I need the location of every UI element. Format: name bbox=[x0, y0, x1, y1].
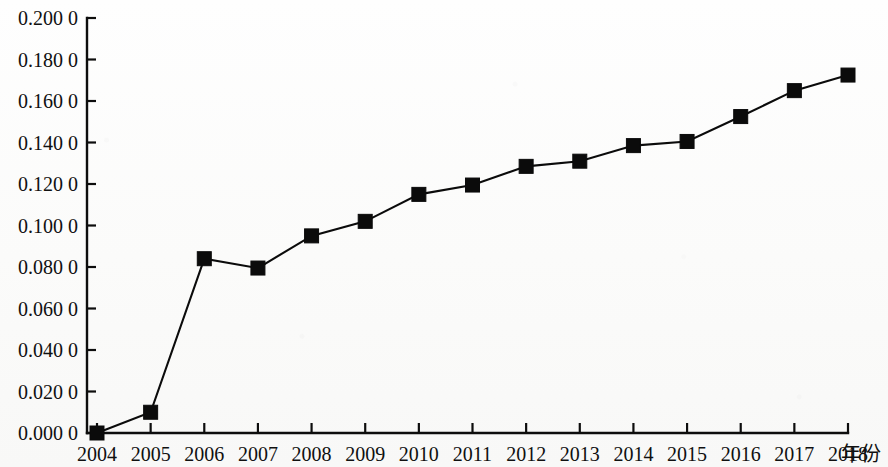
data-point-marker bbox=[144, 405, 158, 419]
data-point-marker bbox=[734, 110, 748, 124]
data-point-marker bbox=[573, 154, 587, 168]
data-point-marker bbox=[358, 214, 372, 228]
line-chart: 0.000 00.020 00.040 00.060 00.080 00.100… bbox=[0, 0, 888, 467]
data-point-marker bbox=[680, 134, 694, 148]
data-point-marker bbox=[841, 68, 855, 82]
x-axis-tick-label: 2015 bbox=[667, 443, 707, 465]
x-axis-tick-label: 2014 bbox=[613, 443, 653, 465]
y-axis-tick-label: 0.020 0 bbox=[18, 381, 78, 403]
data-point-marker bbox=[251, 261, 265, 275]
y-axis-tick-label: 0.080 0 bbox=[18, 256, 78, 278]
y-axis-tick-label: 0.120 0 bbox=[18, 173, 78, 195]
x-axis-tick-label: 2009 bbox=[345, 443, 385, 465]
data-point-marker bbox=[197, 252, 211, 266]
x-axis-tick-label: 2006 bbox=[184, 443, 224, 465]
y-axis-tick-label-group: 0.000 00.020 00.040 00.060 00.080 00.100… bbox=[18, 7, 78, 444]
data-point-marker bbox=[519, 159, 533, 173]
x-axis-tick-label: 2011 bbox=[453, 443, 492, 465]
x-axis-tick-label-group: 2004200520062007200820092010201120122013… bbox=[77, 443, 868, 465]
x-axis-tick-label: 2007 bbox=[238, 443, 278, 465]
x-axis-tick-label: 2013 bbox=[560, 443, 600, 465]
data-point-marker bbox=[626, 139, 640, 153]
x-axis-tick-label: 2016 bbox=[721, 443, 761, 465]
y-axis-tick-label: 0.100 0 bbox=[18, 215, 78, 237]
data-point-marker bbox=[787, 84, 801, 98]
y-axis-tick-label: 0.160 0 bbox=[18, 90, 78, 112]
x-axis-tick-label: 2008 bbox=[292, 443, 332, 465]
data-point-marker bbox=[466, 178, 480, 192]
y-axis-tick-mark-group bbox=[87, 18, 96, 433]
x-axis-tick-label: 2005 bbox=[131, 443, 171, 465]
y-axis-tick-label: 0.200 0 bbox=[18, 7, 78, 29]
data-point-marker bbox=[412, 187, 426, 201]
y-axis-tick-label: 0.140 0 bbox=[18, 132, 78, 154]
series-marker-group bbox=[90, 68, 855, 440]
data-point-marker bbox=[90, 426, 104, 440]
x-axis-tick-mark-group bbox=[97, 423, 848, 433]
y-axis-tick-label: 0.060 0 bbox=[18, 298, 78, 320]
y-axis-tick-label: 0.040 0 bbox=[18, 339, 78, 361]
x-axis-tick-label: 2012 bbox=[506, 443, 546, 465]
x-axis-tick-label: 2017 bbox=[774, 443, 814, 465]
x-axis-tick-label: 2004 bbox=[77, 443, 117, 465]
y-axis-tick-label: 0.180 0 bbox=[18, 49, 78, 71]
x-axis-tick-label: 2010 bbox=[399, 443, 439, 465]
x-axis-title: 年份 bbox=[841, 443, 881, 465]
y-axis-tick-label: 0.000 0 bbox=[18, 422, 78, 444]
data-point-marker bbox=[305, 229, 319, 243]
chart-page: 0.000 00.020 00.040 00.060 00.080 00.100… bbox=[0, 0, 888, 467]
